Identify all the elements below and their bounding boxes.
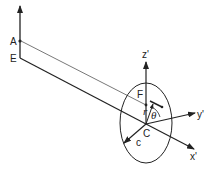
label-r: r xyxy=(143,105,148,117)
angle-bar-end xyxy=(161,106,164,109)
label-theta: θ xyxy=(151,109,157,121)
mechanics-diagram: A E z' y' x' c C F r θ xyxy=(0,0,220,169)
label-z-prime: z' xyxy=(142,49,149,60)
x-prime-axis-arrow xyxy=(146,124,194,149)
label-c-point: C xyxy=(143,128,150,139)
label-c-lower: c xyxy=(136,137,141,148)
label-x-prime: x' xyxy=(190,151,197,162)
label-e: E xyxy=(10,53,17,64)
label-a: A xyxy=(10,36,17,47)
line-e-to-c xyxy=(20,58,146,124)
label-y-prime: y' xyxy=(197,109,204,120)
label-f: F xyxy=(137,89,143,100)
